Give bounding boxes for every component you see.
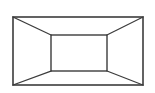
perspective-diagram-figure xyxy=(0,0,155,93)
perspective-room-svg xyxy=(0,0,155,93)
back-wall-face xyxy=(51,35,107,71)
